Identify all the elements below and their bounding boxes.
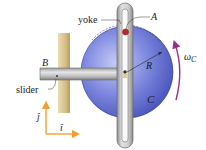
rod-pin — [123, 70, 127, 74]
unit-j-label: ĵ — [35, 111, 41, 122]
omega-arrow — [175, 44, 180, 100]
radius-label: R — [145, 60, 152, 71]
slider-label: slider — [16, 84, 39, 95]
pin-a — [123, 29, 129, 35]
pin-bushing — [123, 74, 127, 78]
slider-rod — [40, 68, 126, 80]
slider-leader — [48, 79, 56, 89]
point-b-label: B — [42, 57, 48, 68]
yoke-mechanism-diagram: yoke A B slider R C ωC ĵ î — [0, 0, 206, 150]
omega-label: ωC — [184, 51, 197, 64]
slider-point-b — [56, 75, 58, 77]
disk-c-label: C — [147, 93, 155, 105]
unit-i-label: î — [60, 122, 64, 133]
pin-a-label: A — [150, 11, 158, 22]
yoke-label: yoke — [78, 14, 98, 25]
